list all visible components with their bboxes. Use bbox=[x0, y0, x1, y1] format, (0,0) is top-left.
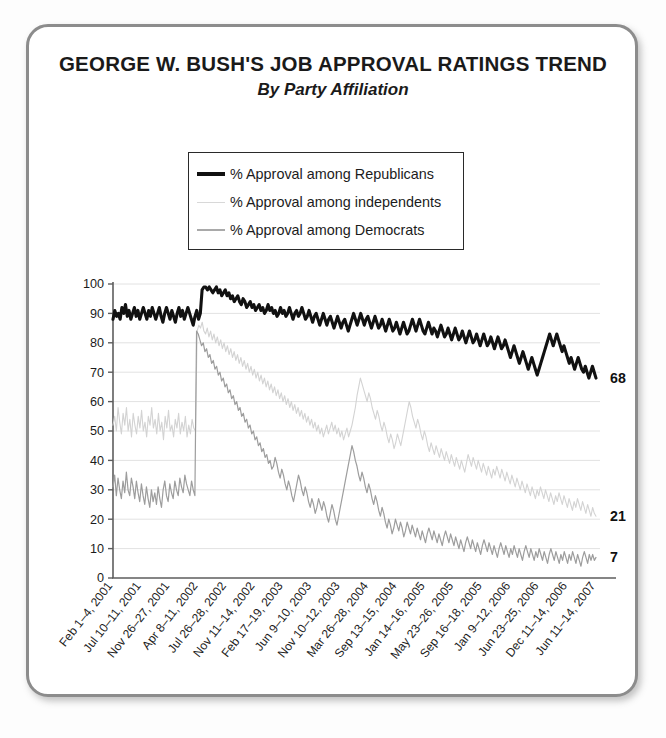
legend-item-democrats[interactable]: % Approval among Democrats bbox=[189, 216, 463, 244]
chart-legend: % Approval among Republicans % Approval … bbox=[188, 152, 464, 250]
chart-page: GEORGE W. BUSH'S JOB APPROVAL RATINGS TR… bbox=[0, 0, 666, 738]
legend-line-independents-icon bbox=[197, 196, 225, 208]
chart-card-frame bbox=[26, 24, 638, 697]
chart-title: GEORGE W. BUSH'S JOB APPROVAL RATINGS TR… bbox=[0, 52, 666, 76]
legend-label-republicans: % Approval among Republicans bbox=[230, 166, 434, 182]
legend-label-democrats: % Approval among Democrats bbox=[230, 222, 424, 238]
chart-subtitle: By Party Affiliation bbox=[0, 80, 666, 100]
legend-item-republicans[interactable]: % Approval among Republicans bbox=[189, 160, 463, 188]
legend-item-independents[interactable]: % Approval among independents bbox=[189, 188, 463, 216]
legend-line-republicans-icon bbox=[197, 168, 225, 180]
legend-line-democrats-icon bbox=[197, 224, 225, 236]
legend-label-independents: % Approval among independents bbox=[230, 194, 441, 210]
